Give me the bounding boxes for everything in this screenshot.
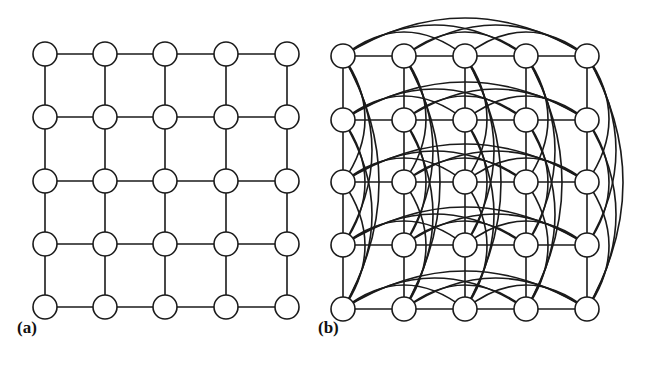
panel-a xyxy=(33,42,299,319)
graph-node xyxy=(33,105,57,129)
graph-node xyxy=(514,297,538,321)
graph-node xyxy=(214,295,238,319)
panel-b xyxy=(331,18,623,321)
graph-node xyxy=(575,170,599,194)
graph-node xyxy=(93,295,117,319)
graph-node xyxy=(453,44,477,68)
graph-node xyxy=(392,44,416,68)
graph-node xyxy=(514,108,538,132)
graph-node xyxy=(392,233,416,257)
grid-graphs-figure xyxy=(0,0,649,372)
graph-node xyxy=(214,169,238,193)
graph-node xyxy=(153,105,177,129)
graph-node xyxy=(575,108,599,132)
graph-node xyxy=(575,233,599,257)
graph-node xyxy=(392,170,416,194)
graph-node xyxy=(575,297,599,321)
graph-node xyxy=(153,295,177,319)
graph-node xyxy=(93,232,117,256)
graph-node xyxy=(453,108,477,132)
graph-node xyxy=(93,105,117,129)
long-range-row-edge xyxy=(404,278,587,309)
graph-node xyxy=(153,169,177,193)
graph-node xyxy=(275,105,299,129)
graph-node xyxy=(453,297,477,321)
graph-node xyxy=(331,44,355,68)
graph-node xyxy=(33,232,57,256)
graph-node xyxy=(514,170,538,194)
graph-node xyxy=(514,233,538,257)
graph-node xyxy=(153,232,177,256)
long-range-row-edge xyxy=(404,89,587,120)
graph-node xyxy=(33,295,57,319)
graph-node xyxy=(514,44,538,68)
graph-node xyxy=(33,42,57,66)
graph-node xyxy=(392,297,416,321)
graph-node xyxy=(275,232,299,256)
graph-node xyxy=(331,233,355,257)
graph-node xyxy=(575,44,599,68)
panel-a-label: (a) xyxy=(17,318,37,338)
long-range-row-edge xyxy=(404,25,587,56)
graph-node xyxy=(153,42,177,66)
graph-node xyxy=(93,169,117,193)
panel-b-label: (b) xyxy=(318,318,339,338)
graph-node xyxy=(453,233,477,257)
graph-node xyxy=(392,108,416,132)
graph-node xyxy=(331,108,355,132)
graph-node xyxy=(33,169,57,193)
graph-node xyxy=(275,169,299,193)
graph-node xyxy=(453,170,477,194)
graph-node xyxy=(275,42,299,66)
graph-node xyxy=(214,105,238,129)
graph-node xyxy=(275,295,299,319)
graph-node xyxy=(214,42,238,66)
graph-node xyxy=(331,170,355,194)
graph-node xyxy=(93,42,117,66)
graph-node xyxy=(214,232,238,256)
